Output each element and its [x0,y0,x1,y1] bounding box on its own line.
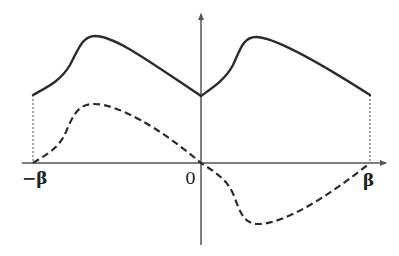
beta-label: β [363,170,374,190]
diagram-canvas: −β 0 β [0,0,399,256]
neg-beta-label: −β [22,168,48,188]
origin-label: 0 [185,168,196,188]
